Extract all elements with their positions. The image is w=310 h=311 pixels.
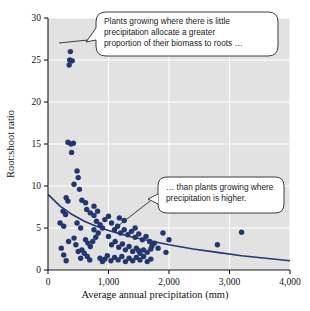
data-point [91,203,96,208]
chart-figure: 051015202530 01,0002,0003,0004,000 Avera… [0,0,310,311]
data-point [148,256,153,261]
x-axis-ticks: 01,0002,0003,0004,000 [46,270,301,287]
data-point [87,257,92,262]
data-point [66,239,71,244]
y-tick-label: 15 [32,139,42,149]
data-point [69,150,74,155]
y-tick-label: 25 [32,55,42,65]
data-point [95,209,100,214]
data-point [132,225,137,230]
data-point [71,182,76,187]
data-point [160,230,165,235]
callout-high-line-1: … than plants growing where [166,182,274,192]
y-tick-label: 30 [32,13,42,23]
data-point [143,234,148,239]
data-point [66,62,71,67]
data-point [71,235,76,240]
data-point [106,234,111,239]
y-tick-label: 10 [32,181,42,191]
y-tick-label: 20 [32,97,42,107]
data-point [117,215,122,220]
data-point [78,256,83,261]
y-axis-ticks: 051015202530 [32,13,49,275]
data-point [102,217,107,222]
x-tick-label: 2,000 [158,277,180,287]
data-point [109,220,114,225]
data-point [73,242,78,247]
data-point [166,237,171,242]
data-point [119,254,124,259]
scatter-chart-svg: 051015202530 01,0002,0003,0004,000 Avera… [0,0,310,311]
data-point [112,239,117,244]
x-tick-label: 0 [46,277,51,287]
x-tick-label: 1,000 [98,277,120,287]
data-point [77,187,82,192]
data-point [78,225,83,230]
y-tick-label: 5 [36,223,41,233]
data-point [59,245,64,250]
data-point [105,253,110,258]
data-point [76,249,81,254]
data-point [83,200,88,205]
data-point [61,224,66,229]
callout-high-line-2: precipitation is higher. [166,193,246,203]
data-point [136,231,141,236]
data-point [63,212,68,217]
data-point [239,230,244,235]
callout-low-line-3: proportion of their biomass to roots … [104,38,243,48]
data-point [91,227,96,232]
x-tick-label: 3,000 [219,277,241,287]
data-point [68,141,73,146]
data-point [88,244,93,249]
data-point [122,227,127,232]
data-point [126,244,131,249]
data-point [76,175,81,180]
data-point [155,245,160,250]
data-point [148,246,153,251]
data-point [163,250,168,255]
data-point [74,220,79,225]
data-point [61,252,66,257]
data-point [120,241,125,246]
data-point [215,242,220,247]
data-point [63,258,68,263]
callout-low-line-1: Plants growing where there is little [104,16,230,26]
data-point [91,213,96,218]
callout-low-line-2: precipitation allocate a greater [104,27,215,37]
data-point [68,49,73,54]
y-axis-label: Root:shoot ratio [5,110,16,178]
data-point [96,230,101,235]
x-tick-label: 4,000 [279,277,301,287]
data-point [136,248,141,253]
x-axis-label: Average annual precipitation (mm) [81,289,229,301]
y-tick-label: 0 [36,265,41,275]
data-point [74,168,79,173]
data-point [65,198,70,203]
